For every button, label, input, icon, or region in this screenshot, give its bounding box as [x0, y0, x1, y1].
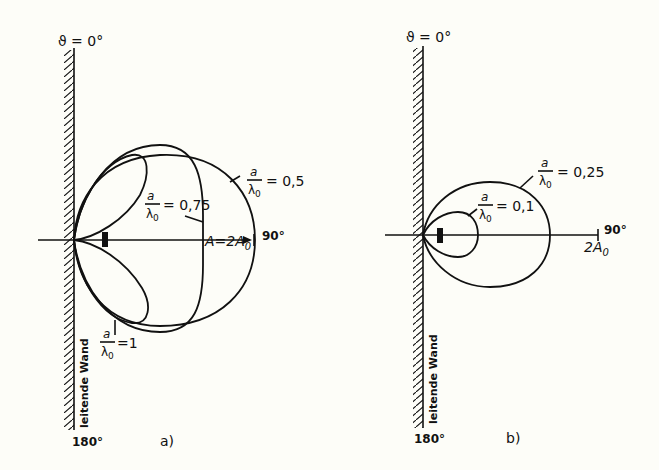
svg-text:2A0: 2A0 [584, 239, 609, 258]
angle-right-label-b: 90° [604, 223, 627, 237]
label-a-1: a λ0 =1 [100, 327, 138, 361]
svg-text:a: a [250, 165, 257, 179]
amplitude-label-a: A=2A0 [204, 233, 251, 252]
svg-text:λ0: λ0 [101, 345, 114, 361]
wall-label-b: leitende Wand [427, 334, 440, 424]
angle-top-label-b: ϑ = 0° [406, 29, 451, 45]
angle-bottom-label-a: 180° [72, 435, 103, 449]
svg-text:λ0: λ0 [539, 174, 552, 190]
dipole-element-b [437, 228, 443, 243]
svg-text:λ0: λ0 [248, 183, 261, 199]
svg-text:a: a [147, 189, 154, 203]
svg-text:=1: =1 [117, 335, 138, 351]
svg-text:a: a [541, 156, 548, 170]
amplitude-label-b: 2A0 [584, 239, 609, 258]
figure: ϑ = 0° 180° 90° a) leitende Wand A=2A0 a… [0, 0, 659, 470]
conducting-wall-b [413, 46, 423, 428]
label-a-0.75: a λ0 = 0,75 [145, 189, 210, 223]
curve-a-0.75 [74, 145, 203, 332]
panel-label-a: a) [160, 433, 174, 449]
dipole-element-a [102, 232, 108, 247]
svg-text:= 0,1: = 0,1 [496, 198, 534, 214]
panel-label-b: b) [506, 430, 520, 446]
angle-top-label-a: ϑ = 0° [58, 33, 103, 49]
angle-bottom-label-b: 180° [414, 432, 445, 446]
panel-b: ϑ = 0° 180° 90° b) leitende Wand 2A0 a λ… [385, 29, 627, 446]
svg-text:A=2A0: A=2A0 [204, 233, 251, 252]
svg-text:λ0: λ0 [146, 207, 159, 223]
svg-text:= 0,5: = 0,5 [266, 173, 304, 189]
svg-text:a: a [481, 190, 488, 204]
svg-text:λ0: λ0 [479, 208, 492, 224]
wall-label-a: leitende Wand [78, 338, 91, 428]
svg-text:= 0,75: = 0,75 [163, 197, 210, 213]
label-b-0.1: a λ0 = 0,1 [478, 190, 534, 224]
label-a-0.5: a λ0 = 0,5 [247, 165, 304, 199]
svg-text:a: a [103, 327, 110, 341]
svg-text:= 0,25: = 0,25 [557, 164, 604, 180]
figure-canvas: ϑ = 0° 180° 90° a) leitende Wand A=2A0 a… [0, 0, 659, 470]
panel-a: ϑ = 0° 180° 90° a) leitende Wand A=2A0 a… [38, 33, 304, 449]
conducting-wall-a [64, 48, 74, 430]
label-b-0.25: a λ0 = 0,25 [538, 156, 604, 190]
angle-right-label-a: 90° [262, 229, 285, 243]
